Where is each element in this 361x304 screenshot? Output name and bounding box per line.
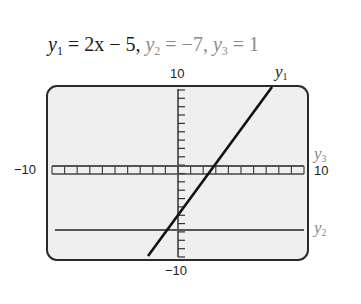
x-min-label: −10 (14, 162, 36, 177)
y-min-label: −10 (165, 263, 187, 278)
x-axis-ticks (52, 166, 304, 174)
x-max-label: 10 (314, 163, 328, 178)
y3-curve-label: y3 (314, 144, 327, 164)
y1-curve-label: y1 (275, 62, 288, 82)
y-max-label: 10 (170, 66, 184, 81)
graph-window (0, 0, 361, 304)
y2-curve-label: y2 (314, 218, 327, 238)
